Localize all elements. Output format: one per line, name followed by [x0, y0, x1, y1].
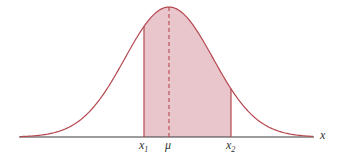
- x2-label: x2: [225, 138, 235, 154]
- mu-label: μ: [164, 138, 171, 152]
- shaded-area-x1-x2: [144, 7, 231, 137]
- normal-distribution-diagram: x1 μ x2 x: [0, 0, 346, 157]
- x1-label: x1: [138, 138, 148, 154]
- x-axis-label: x: [319, 128, 326, 142]
